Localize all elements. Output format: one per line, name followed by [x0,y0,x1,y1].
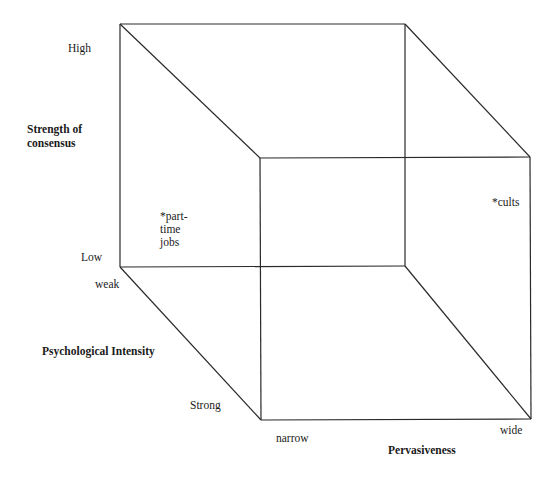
edge-front-left [260,158,261,420]
edge-front-right [530,157,531,419]
axis-vertical-title-line1: Strength of [27,122,82,136]
cube-edges [0,0,559,477]
cube-diagram: High Strength of consensus Low weak Psyc… [0,0,559,477]
axis-depth-title: Psychological Intensity [42,344,155,358]
edge-bottom-right-depth [405,266,531,419]
axis-wide-label: wide [500,423,522,437]
axis-low-label: Low [81,250,102,264]
axis-strong-label: Strong [190,398,221,412]
point-cults: *cults [492,195,519,209]
axis-high-label: High [68,41,91,55]
axis-narrow-label: narrow [276,431,309,445]
edge-back-bottom [120,266,405,267]
edge-front-bottom [261,419,531,420]
point-part-time-jobs-line2: time [160,222,180,236]
axis-horizontal-title: Pervasiveness [388,443,456,457]
axis-weak-label: weak [95,277,119,291]
axis-vertical-title-line2: consensus [27,136,76,150]
edge-front-top [260,157,530,158]
edge-top-right-depth [405,24,530,157]
point-part-time-jobs-line3: jobs [160,235,179,249]
edge-top-left-depth [120,24,260,158]
point-part-time-jobs-line1: *part- [160,209,187,223]
